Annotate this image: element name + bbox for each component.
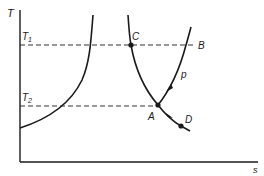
isotherm-t1-label: T1 [22,31,32,43]
isotherm-t2-label: T2 [22,92,32,104]
t1-sub: 1 [28,36,32,43]
point-a-label: A [147,111,155,122]
saturated-liquid-curve [20,15,93,128]
y-axis-label: T [7,7,15,19]
isobar-p-label: p [180,69,187,80]
point-c-label: C [132,31,140,42]
point-c [128,42,133,47]
point-d-label: D [185,114,192,125]
point-d [178,123,183,128]
x-axis-label: s [253,165,258,175]
point-a [155,102,160,107]
ts-diagram: T s T1 T2 C B A D p [0,0,264,176]
t2-sub: 2 [27,97,32,104]
point-b-label: B [198,40,205,51]
isobar-arrow-icon [166,84,173,92]
isobar-p-curve [158,27,191,105]
